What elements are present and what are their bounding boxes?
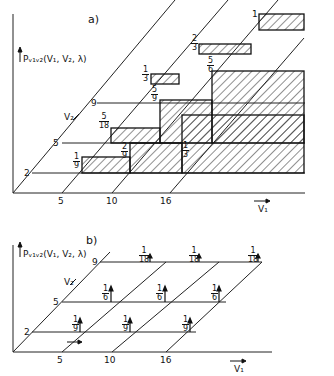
panel-b-prob-label: 19: [72, 316, 79, 333]
panel-b-v1-axis-label: V₁: [234, 365, 244, 374]
panel-a-prob-label: 1: [252, 10, 258, 19]
panel-a-v1-tick-16: 16: [160, 197, 171, 206]
panel-a-prob-label: 56: [207, 57, 214, 74]
panel-a-v1-axis-label: V₁: [258, 205, 268, 214]
panel-b-v2-tick-2: 2: [24, 328, 30, 337]
panel-b-prob-label: 118: [189, 247, 199, 264]
panel-a-prob-label: 518: [99, 113, 109, 130]
panel-b-prob-label: 118: [248, 247, 258, 264]
panel-b-prob-label: 16: [102, 285, 109, 302]
panel-b-v2-axis-label: V₂: [64, 278, 74, 287]
panel-a-label: a): [88, 13, 99, 26]
panel-b-prob-label: 16: [156, 285, 163, 302]
panel-a-prob-label: 13: [142, 66, 149, 83]
panel-b-prob-label: 19: [122, 316, 129, 333]
panel-a-v2-tick-5: 5: [53, 139, 59, 148]
panel-a-y-axis-title: Pᵥ₁ᵥ₂(V₁, V₂, λ): [23, 54, 86, 64]
panel-b-v1-tick-10: 10: [104, 356, 115, 365]
panel-b-label: b): [86, 234, 97, 247]
panel-a-v1-tick-5: 5: [58, 197, 64, 206]
panel-b-prob-label: 19: [182, 316, 189, 333]
panel-b-v1-tick-16: 16: [160, 356, 171, 365]
panel-a-v2-tick-2: 2: [24, 169, 30, 178]
panel-b-y-axis-title: Pᵥ₁ᵥ₂(V₁, V₂, λ): [23, 249, 86, 259]
panel-a-prob-label: 29: [121, 143, 128, 160]
panel-a-prob-label: 59: [151, 86, 158, 103]
panel-a-prob-label: 23: [191, 35, 198, 52]
panel-b-v1-tick-5: 5: [57, 356, 63, 365]
panel-a-prob-label: 19: [73, 153, 80, 170]
panel-b-prob-label: 16: [211, 285, 218, 302]
panel-b-v2-tick-5: 5: [53, 298, 59, 307]
panel-b-prob-label: 118: [139, 247, 149, 264]
panel-a-v2-tick-9: 9: [91, 99, 97, 108]
panel-a-v1-tick-10: 10: [106, 197, 117, 206]
panel-b-v2-tick-9: 9: [92, 258, 98, 267]
panel-a-prob-label: 13: [182, 142, 189, 159]
panel-a-v2-axis-label: V₂: [64, 113, 74, 122]
